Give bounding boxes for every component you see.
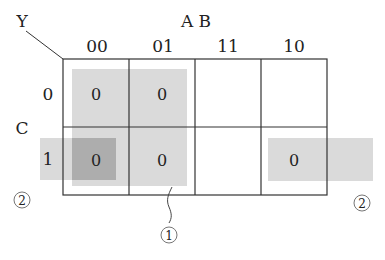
column-variables-label: A B [180,11,211,31]
row-header: 0 [43,84,54,104]
group-2-marker-label-left: 2 [18,194,26,208]
group-2-region-right [268,138,373,181]
column-header: 00 [86,36,108,56]
column-header: 01 [152,36,174,56]
row-variable-label: C [15,118,28,138]
cell-value: 0 [91,85,101,104]
cell-value: 0 [157,151,167,170]
karnaugh-map: Y A B C 00 01 11 10 0 1 0 0 0 0 0 1 2 2 [0,0,385,260]
corner-diagonal [26,31,63,59]
cell-value: 0 [157,85,167,104]
cell-value: 0 [91,151,101,170]
output-label: Y [15,11,28,31]
row-header: 1 [43,149,54,169]
column-header: 11 [217,36,239,56]
group-2-marker-label-right: 2 [358,197,366,211]
cell-value: 0 [289,151,299,170]
group-1-marker-label: 1 [165,229,173,243]
column-header: 10 [283,36,305,56]
group-1-leader-line [168,187,172,223]
